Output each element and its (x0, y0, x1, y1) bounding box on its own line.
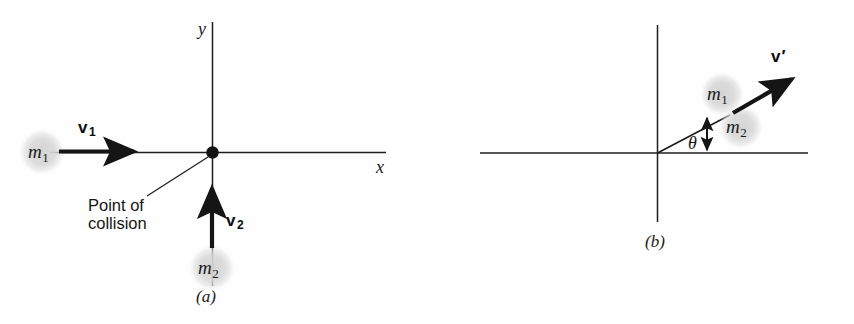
panel-b-mass-m2-label: m2 (726, 117, 747, 139)
panel-a-velocity-v1-subscript: 1 (89, 125, 96, 139)
panel-a-caption: (a) (196, 288, 216, 305)
panel-a-velocity-v2-label: v2 (226, 212, 244, 231)
panel-b-angle-theta-label: θ (688, 134, 697, 152)
collision-figure: y x m1 m2 v1 v2 Point of collision (a) m… (0, 0, 854, 324)
panel-b-mass-m1-subscript: 1 (721, 92, 728, 107)
panel-b-mass-m1-label: m1 (707, 84, 728, 106)
panel-a-velocity-v2-subscript: 2 (237, 218, 244, 232)
panel-b-velocity-prime-mark: ′ (781, 47, 785, 66)
panel-a-collision-point-dot (206, 146, 218, 158)
panel-b-mass-m2-subscript: 2 (740, 125, 747, 140)
panel-b-group (480, 25, 808, 222)
panel-b-velocity-v-prime-symbol: v (771, 47, 780, 66)
panel-a-mass-m2-label: m2 (198, 258, 219, 280)
panel-a-mass-m2-symbol: m (198, 257, 212, 278)
panel-a-mass-m2-subscript: 2 (212, 266, 219, 281)
panel-a-velocity-v2-symbol: v (226, 211, 235, 230)
panel-a-group (19, 22, 386, 291)
panel-b-mass-m2-symbol: m (726, 116, 740, 137)
panel-b-velocity-v-prime-label: v′ (771, 48, 786, 65)
panel-a-mass-m1-subscript: 1 (42, 150, 49, 165)
panel-a-mass-m1-symbol: m (28, 141, 42, 162)
figure-canvas (0, 0, 854, 324)
panel-a-mass-m1-label: m1 (28, 142, 49, 164)
panel-b-mass-m1-symbol: m (707, 83, 721, 104)
panel-a-velocity-v1-label: v1 (78, 119, 96, 138)
panel-a-velocity-v1-symbol: v (78, 118, 87, 137)
panel-a-y-axis-label: y (198, 20, 206, 38)
panel-a-collision-point-annotation: Point of collision (88, 196, 147, 233)
panel-a-collision-leader-line (147, 157, 208, 196)
panel-a-x-axis-label: x (376, 158, 384, 176)
panel-b-caption: (b) (645, 233, 665, 250)
